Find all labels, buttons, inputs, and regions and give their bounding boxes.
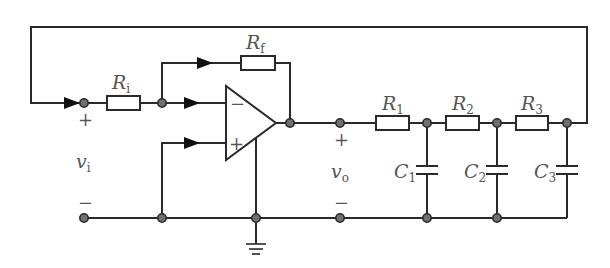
junction-node [158,99,166,107]
vo-plus-terminal [336,119,344,127]
opamp-inverting-sign: − [230,93,245,114]
arrow-icon [184,97,200,109]
vi-minus-terminal [80,214,88,222]
junction-node [423,214,431,222]
vo-minus-sign: − [334,192,349,213]
arrow-icon [64,97,80,109]
vo-plus-sign: + [334,129,349,150]
junction-node [493,214,501,222]
label-vi: vi [76,150,91,175]
ground-icon [246,218,266,254]
junction-node [493,119,501,127]
label-ri: Ri [111,71,130,96]
junction-node [158,214,166,222]
opamp-noninverting-sign: + [229,133,244,154]
resistor-ri [107,96,140,110]
capacitor-c1 [416,123,438,218]
vi-plus-sign: + [78,109,93,130]
resistor-r2 [446,116,479,130]
wire [275,63,290,123]
label-rf: Rf [245,31,266,56]
label-c2: C2 [464,160,486,185]
output-node [286,119,294,127]
label-c1: C1 [394,160,416,185]
ground-node [252,214,260,222]
label-r2: R2 [451,92,474,117]
label-vo: vo [331,160,349,185]
label-c3: C3 [534,160,556,185]
label-r1: R1 [381,92,404,117]
vo-minus-terminal [336,214,344,222]
junction-node [423,119,431,127]
junction-node [563,119,571,127]
circuit-diagram: − + [0,0,610,268]
arrow-icon [197,57,213,69]
arrow-icon [184,137,200,149]
capacitor-c3 [556,123,578,218]
label-r3: R3 [520,92,543,117]
vi-minus-sign: − [78,192,93,213]
wire [162,143,226,218]
resistor-r1 [376,116,409,130]
resistor-rf [241,56,275,70]
vi-plus-terminal [80,99,88,107]
capacitor-c2 [486,123,508,218]
resistor-r3 [516,116,548,130]
